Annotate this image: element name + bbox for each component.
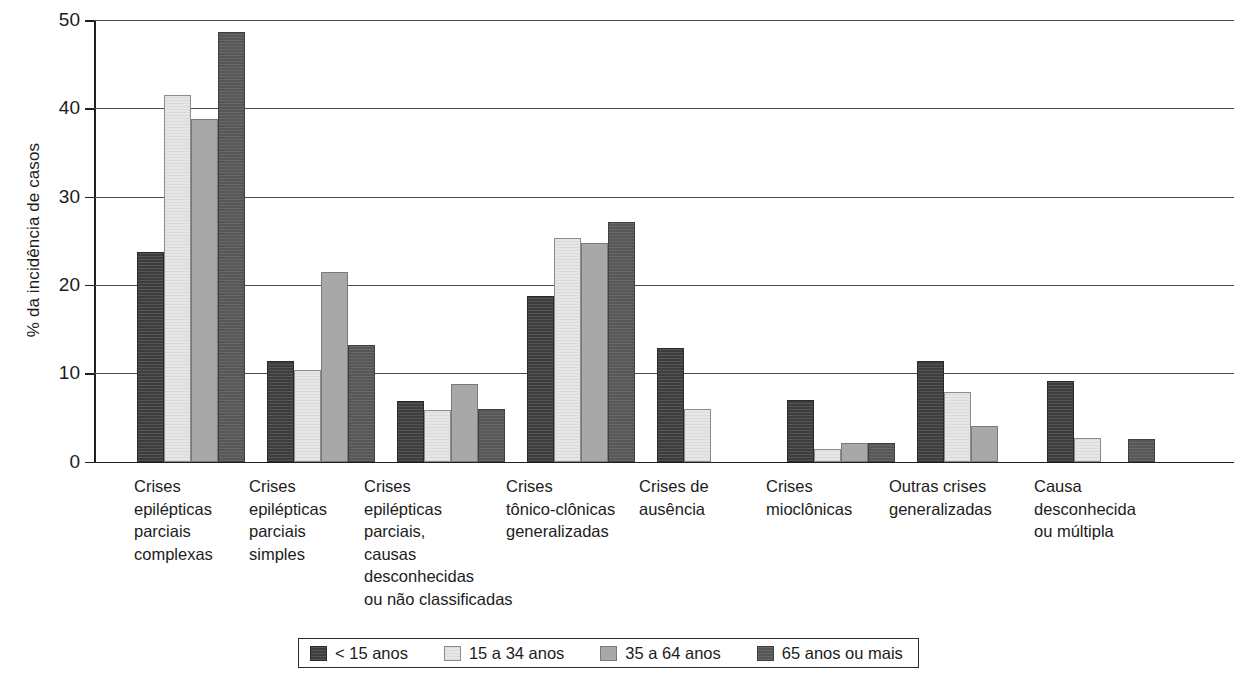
y-tick-mark	[85, 20, 94, 22]
y-tick-label: 10	[59, 362, 80, 384]
x-axis-category-line: ausência	[639, 498, 709, 521]
y-axis-title: % da incidência de casos	[24, 110, 44, 370]
bars-layer	[94, 20, 1234, 463]
x-axis-category-line: generalizadas	[889, 498, 992, 521]
y-tick-mark	[85, 108, 94, 110]
x-axis-category-label: Crisesmioclônicas	[766, 475, 852, 520]
legend-swatch-icon	[600, 646, 617, 661]
legend-item: 35 a 64 anos	[600, 644, 720, 663]
x-axis-category-line: epilépticas	[364, 498, 513, 521]
x-axis-category-line: parciais	[249, 520, 327, 543]
bar	[684, 409, 711, 462]
bar	[554, 238, 581, 461]
bar	[1074, 438, 1101, 462]
bar	[348, 345, 375, 462]
bar	[1047, 381, 1074, 461]
bar	[944, 392, 971, 462]
x-axis-category-line: desconhecida	[1034, 498, 1136, 521]
legend-label: 35 a 64 anos	[625, 644, 720, 663]
x-axis-category-label: Crisesepilépticasparciaiscomplexas	[134, 475, 213, 565]
x-axis-category-line: Crises	[364, 475, 513, 498]
legend-label: 15 a 34 anos	[469, 644, 564, 663]
y-tick-mark	[85, 285, 94, 287]
x-axis-category-line: Crises	[766, 475, 852, 498]
bar	[841, 443, 868, 462]
bar	[397, 401, 424, 462]
bar	[814, 449, 841, 461]
x-axis-category-line: Crises	[249, 475, 327, 498]
bar	[868, 443, 895, 462]
bar	[1128, 439, 1155, 462]
legend-label: 65 anos ou mais	[782, 644, 903, 663]
legend-swatch-icon	[757, 646, 774, 661]
bar	[478, 409, 505, 462]
x-axis-category-line: causas	[364, 543, 513, 566]
legend-label: < 15 anos	[335, 644, 408, 663]
x-axis-category-line: epilépticas	[134, 498, 213, 521]
bar	[137, 252, 164, 461]
plot-area: 01020304050	[94, 20, 1234, 463]
bar	[608, 222, 635, 461]
bar	[581, 243, 608, 461]
x-axis-category-label: Causadesconhecidaou múltipla	[1034, 475, 1136, 543]
x-axis-category-line: generalizadas	[506, 520, 615, 543]
bar	[451, 384, 478, 462]
chart-page: % da incidência de casos 01020304050 Cri…	[0, 0, 1253, 674]
bar	[218, 32, 245, 461]
x-axis-category-label: Crisesepilépticasparciais,causasdesconhe…	[364, 475, 513, 610]
legend-item: 65 anos ou mais	[757, 644, 903, 663]
x-axis-category-line: desconhecidas	[364, 565, 513, 588]
bar	[917, 361, 944, 462]
bar	[971, 426, 998, 461]
y-tick-label: 30	[59, 186, 80, 208]
x-axis-category-labels: CrisesepilépticasparciaiscomplexasCrises…	[94, 475, 1253, 625]
x-axis-category-line: simples	[249, 543, 327, 566]
y-tick-label: 40	[59, 97, 80, 119]
x-axis-category-line: tônico-clônicas	[506, 498, 615, 521]
y-tick-label: 0	[69, 451, 80, 473]
x-axis-category-label: Outras crisesgeneralizadas	[889, 475, 992, 520]
x-axis-category-line: Outras crises	[889, 475, 992, 498]
bar	[424, 410, 451, 461]
bar	[787, 400, 814, 462]
y-tick-mark	[85, 373, 94, 375]
x-axis-category-line: Causa	[1034, 475, 1136, 498]
x-axis-category-line: complexas	[134, 543, 213, 566]
x-axis-category-label: Crisestônico-clônicasgeneralizadas	[506, 475, 615, 543]
legend-item: 15 a 34 anos	[444, 644, 564, 663]
legend-item: < 15 anos	[310, 644, 408, 663]
bar	[191, 119, 218, 462]
x-axis-category-line: Crises de	[639, 475, 709, 498]
bar	[294, 370, 321, 462]
legend-swatch-icon	[310, 646, 327, 661]
x-axis-category-line: ou múltipla	[1034, 520, 1136, 543]
x-axis-category-line: parciais	[134, 520, 213, 543]
x-axis-category-line: Crises	[134, 475, 213, 498]
bar	[164, 95, 191, 461]
legend-swatch-icon	[444, 646, 461, 661]
x-axis-category-line: ou não classificadas	[364, 588, 513, 611]
x-axis-category-label: Crisesepilépticasparciaissimples	[249, 475, 327, 565]
x-axis-category-line: mioclônicas	[766, 498, 852, 521]
bar	[527, 296, 554, 462]
y-tick-label: 50	[59, 9, 80, 31]
x-axis-category-line: parciais,	[364, 520, 513, 543]
x-axis-category-line: epilépticas	[249, 498, 327, 521]
y-tick-mark	[85, 197, 94, 199]
chart-legend: < 15 anos15 a 34 anos35 a 64 anos65 anos…	[298, 638, 919, 668]
bar	[657, 348, 684, 462]
bar	[267, 361, 294, 462]
y-tick-label: 20	[59, 274, 80, 296]
bar	[321, 272, 348, 462]
x-axis-category-line: Crises	[506, 475, 615, 498]
x-axis-category-label: Crises deausência	[639, 475, 709, 520]
y-tick-mark	[85, 462, 94, 464]
